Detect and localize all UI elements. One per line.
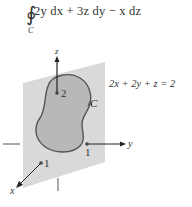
plane-equation-label: 2x + 2y + z = 2 <box>109 78 176 89</box>
x-intercept-label: 1 <box>44 157 50 169</box>
z-intercept-point <box>55 91 59 95</box>
stokes-figure: z 2 C y 1 x 1 2x + 2y + z = 2 <box>0 0 192 207</box>
x-axis-label: x <box>9 185 15 196</box>
z-axis-label: z <box>54 46 59 56</box>
curve-label: C <box>90 97 98 109</box>
z-axis-arrow-icon <box>55 56 60 62</box>
y-axis-label: y <box>127 138 133 149</box>
y-axis-arrow-icon <box>120 142 126 147</box>
y-intercept-label: 1 <box>85 146 91 158</box>
x-intercept-point <box>39 161 43 165</box>
z-intercept-label: 2 <box>61 87 67 99</box>
